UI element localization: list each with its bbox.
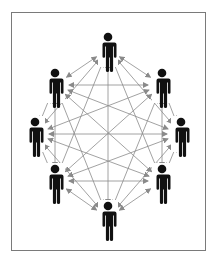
network-diagram bbox=[0, 0, 216, 262]
arrow-top-upper-left bbox=[67, 57, 97, 77]
arrow-top-upper-right bbox=[120, 57, 151, 77]
